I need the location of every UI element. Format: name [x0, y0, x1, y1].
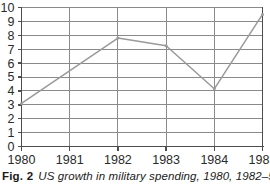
figure-caption: Fig. 2 US growth in military spending, 1… — [2, 166, 268, 185]
y-axis-tick-label: 5 — [8, 70, 15, 84]
y-axis-tick-label: 2 — [8, 112, 15, 126]
x-axis-tick-label: 1982 — [104, 153, 132, 167]
x-axis-tick-label: 1984 — [200, 153, 228, 167]
x-axis-tick-label: 1981 — [56, 153, 84, 167]
y-axis-tick-label: 9 — [8, 15, 15, 29]
line-chart: 012345678910 198019811982198319841985 — [0, 0, 270, 166]
series-data-point — [20, 102, 23, 105]
series-data-point — [213, 87, 216, 90]
y-axis-tick-label: 1 — [8, 126, 15, 140]
series-data-point — [261, 13, 264, 16]
x-axis-tick-label: 1985 — [249, 153, 270, 167]
y-axis-tick-label: 8 — [8, 29, 15, 43]
chart-canvas: 012345678910 198019811982198319841985 — [0, 0, 270, 166]
series-line — [22, 14, 263, 103]
x-axis-labels: 198019811982198319841985 — [8, 153, 270, 167]
series-data-point — [116, 37, 119, 40]
horizontal-gridlines — [22, 8, 263, 147]
x-axis-tick-label: 1980 — [8, 153, 36, 167]
y-axis-tick-label: 10 — [1, 1, 15, 15]
y-axis-tick-label: 7 — [8, 43, 15, 57]
caption-description: US growth in military spending, 1980, 19… — [38, 170, 270, 182]
y-axis-tick-label: 3 — [8, 98, 15, 112]
figure-container: 012345678910 198019811982198319841985 Fi… — [0, 0, 270, 185]
x-axis-tick-label: 1983 — [152, 153, 180, 167]
y-axis-labels: 012345678910 — [1, 1, 15, 154]
y-axis-tick-label: 4 — [8, 84, 15, 98]
caption-figure-number: Fig. 2 — [2, 170, 33, 182]
series-data-point — [165, 44, 168, 47]
y-axis-tick-label: 6 — [8, 57, 15, 71]
